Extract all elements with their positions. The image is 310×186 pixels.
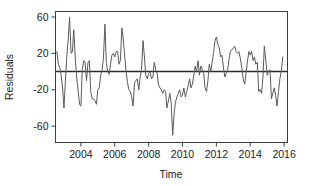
y-axis-tick-labels: 6020-20-60 bbox=[33, 11, 48, 132]
x-tick-label: 2006 bbox=[103, 148, 127, 160]
y-tick-label: 20 bbox=[37, 47, 49, 59]
x-tick-label: 2004 bbox=[69, 148, 93, 160]
y-tick-label: -60 bbox=[33, 120, 48, 132]
x-tick-label: 2010 bbox=[171, 148, 195, 160]
x-axis-title: Time bbox=[160, 168, 183, 180]
y-tick-label: -20 bbox=[33, 83, 48, 95]
x-tick-label: 2012 bbox=[205, 148, 229, 160]
x-tick-label: 2008 bbox=[137, 148, 161, 160]
chart-canvas: 6020-20-60 2004200620082010201220142016 … bbox=[0, 0, 310, 186]
residuals-series-line bbox=[57, 17, 283, 135]
x-tick-label: 2014 bbox=[239, 148, 263, 160]
y-axis-title: Residuals bbox=[3, 54, 15, 100]
residuals-time-series-figure: 6020-20-60 2004200620082010201220142016 … bbox=[0, 0, 310, 186]
x-tick-label: 2016 bbox=[272, 148, 296, 160]
y-tick-label: 60 bbox=[37, 11, 49, 23]
x-axis-tick-marks bbox=[81, 143, 284, 147]
x-axis-tick-labels: 2004200620082010201220142016 bbox=[69, 148, 296, 160]
y-axis-tick-marks bbox=[52, 17, 56, 126]
